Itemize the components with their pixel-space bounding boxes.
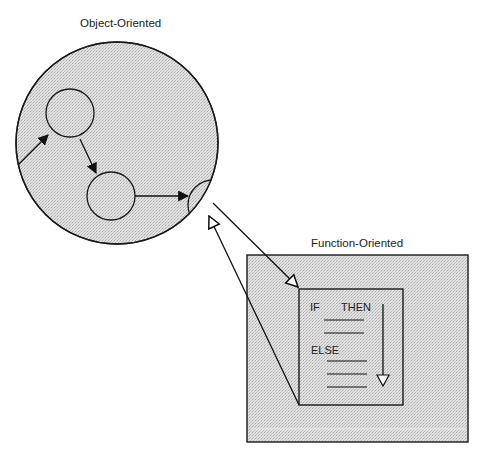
object-node-2 <box>87 172 135 220</box>
if-keyword: IF <box>310 301 320 313</box>
object-node-1 <box>46 89 94 137</box>
object-oriented-label: Object-Oriented <box>80 17 161 29</box>
function-oriented-label: Function-Oriented <box>311 237 403 249</box>
oo-vs-fo-diagram: Object-Oriented Function-Oriented IF THE… <box>0 0 485 460</box>
then-keyword: THEN <box>341 301 371 313</box>
else-keyword: ELSE <box>311 344 339 356</box>
object-node-3 <box>188 180 238 230</box>
